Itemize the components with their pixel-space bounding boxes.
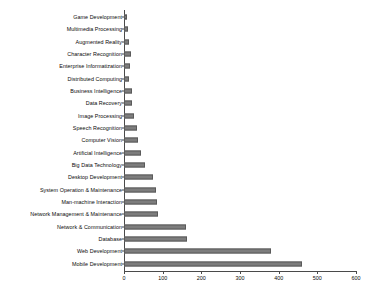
category-label: Game Development [73, 14, 122, 20]
bar-row: System Operation & Maintenance [0, 184, 365, 196]
x-axis-tick-label: 500 [313, 275, 322, 282]
bar [124, 101, 132, 106]
bar [124, 175, 153, 180]
bar [124, 64, 130, 69]
plot-area: Game DevelopmentMultimedia ProcessingAug… [0, 0, 365, 303]
bar-row: Database [0, 233, 365, 245]
bar-rows: Game DevelopmentMultimedia ProcessingAug… [0, 11, 365, 270]
category-label: Web Development [77, 248, 122, 254]
bar [124, 76, 129, 81]
bar [124, 27, 128, 32]
category-label: Network & Communication [57, 224, 122, 230]
x-axis-tick [240, 271, 241, 274]
x-axis-tick [317, 271, 318, 274]
x-axis-tick-label: 0 [123, 275, 126, 282]
bar [124, 150, 141, 155]
bar-row: Web Development [0, 245, 365, 257]
bar-row: Game Development [0, 11, 365, 23]
category-label: Image Processing [78, 113, 122, 119]
category-label: Desktop Development [68, 174, 122, 180]
bar-row: Network & Communication [0, 221, 365, 233]
bar [124, 39, 129, 44]
bar [124, 15, 127, 20]
category-label: Mobile Development [72, 261, 122, 267]
bar-row: Image Processing [0, 110, 365, 122]
category-label: Character Recognition [67, 51, 122, 57]
bar-row: Distributed Computing [0, 73, 365, 85]
bar-row: Computer Vision [0, 134, 365, 146]
category-label: System Operation & Maintenance [40, 187, 122, 193]
x-axis-tick [124, 271, 125, 274]
category-label: Data Recovery [86, 100, 122, 106]
category-label: Multimedia Processing [67, 26, 122, 32]
bar [124, 261, 302, 266]
x-axis-tick-label: 100 [158, 275, 167, 282]
x-axis-tick [279, 271, 280, 274]
category-label: Distributed Computing [68, 76, 122, 82]
bar-row: Mobile Development [0, 258, 365, 270]
bar [124, 237, 187, 242]
category-label: Artificial Intelligence [73, 150, 122, 156]
bar-row: Man-machine Interaction [0, 196, 365, 208]
x-axis-ticks: 0100200300400500600 [0, 271, 365, 293]
category-label: Speech Recognition [73, 125, 122, 131]
bar-row: Network Management & Maintenance [0, 208, 365, 220]
x-axis-tick [201, 271, 202, 274]
bar [124, 249, 271, 254]
bar [124, 138, 138, 143]
bar [124, 200, 157, 205]
bar-row: Multimedia Processing [0, 23, 365, 35]
category-label: Database [99, 236, 122, 242]
bar-row: Business Intelligence [0, 85, 365, 97]
bar [124, 187, 156, 192]
bar [124, 224, 186, 229]
category-label: Business Intelligence [70, 88, 122, 94]
bar [124, 89, 132, 94]
bar [124, 163, 145, 168]
category-label: Augmented Reality [76, 39, 122, 45]
bar [124, 126, 137, 131]
x-axis-tick-label: 600 [352, 275, 361, 282]
category-label: Computer Vision [81, 137, 122, 143]
bar-row: Big Data Technology [0, 159, 365, 171]
bar [124, 212, 158, 217]
bar-chart: Game DevelopmentMultimedia ProcessingAug… [0, 0, 365, 303]
x-axis-tick-label: 300 [236, 275, 245, 282]
bar-row: Enterprise Informatization [0, 60, 365, 72]
bar [124, 52, 131, 57]
x-axis-tick [163, 271, 164, 274]
bar-row: Artificial Intelligence [0, 147, 365, 159]
x-axis-tick-label: 200 [197, 275, 206, 282]
category-label: Enterprise Informatization [59, 63, 122, 69]
bar-row: Data Recovery [0, 97, 365, 109]
bar-row: Augmented Reality [0, 36, 365, 48]
bar-row: Character Recognition [0, 48, 365, 60]
category-label: Big Data Technology [72, 162, 122, 168]
x-axis-tick [356, 271, 357, 274]
bar [124, 113, 134, 118]
category-label: Network Management & Maintenance [30, 211, 122, 217]
bar-row: Desktop Development [0, 171, 365, 183]
x-axis-tick-label: 400 [274, 275, 283, 282]
bar-row: Speech Recognition [0, 122, 365, 134]
category-label: Man-machine Interaction [62, 199, 122, 205]
